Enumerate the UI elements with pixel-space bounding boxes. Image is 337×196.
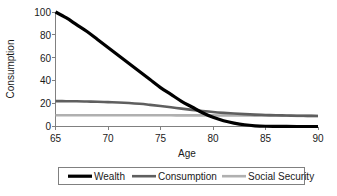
x-tick-label: 65: [50, 133, 62, 144]
data-series-group: [56, 12, 319, 127]
x-axis-tick-labels: 65 70 75 80 85 90: [50, 133, 324, 144]
chart-legend: Wealth Consumption Social Security: [59, 168, 315, 185]
chart-canvas: Consumption 0 20 40 60 80 100: [0, 0, 337, 196]
y-tick-label: 80: [40, 30, 52, 41]
y-axis-tick-labels: 0 20 40 60 80 100: [34, 7, 51, 132]
y-tick-label: 0: [45, 121, 51, 132]
x-tick-label: 75: [155, 133, 167, 144]
x-tick-label: 90: [312, 133, 324, 144]
y-tick-label: 100: [34, 7, 51, 18]
chart-figure: Consumption 0 20 40 60 80 100: [0, 0, 337, 196]
legend-label-social-security: Social Security: [248, 171, 314, 182]
x-tick-label: 70: [102, 133, 114, 144]
legend-label-wealth: Wealth: [94, 171, 125, 182]
y-tick-label: 40: [40, 75, 52, 86]
x-axis-title: Age: [178, 148, 196, 159]
legend-label-consumption: Consumption: [158, 171, 217, 182]
y-tick-label: 60: [40, 53, 52, 64]
y-axis-title: Consumption: [5, 40, 16, 99]
y-axis: [52, 12, 56, 127]
y-tick-label: 20: [40, 98, 52, 109]
x-tick-label: 85: [260, 133, 272, 144]
x-tick-label: 80: [207, 133, 219, 144]
